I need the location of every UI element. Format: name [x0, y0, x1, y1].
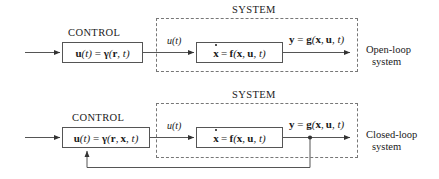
open-loop-system-title: SYSTEM	[232, 5, 276, 16]
closed-loop-control-block: u(t) = γ(r, x, t)	[62, 127, 150, 148]
closed-loop-caption-line1: Closed-loop	[366, 129, 417, 141]
open-loop-plant-block: x = f(x, u, t)	[196, 42, 283, 63]
open-loop-caption: Open-loop system	[366, 44, 411, 69]
open-loop-control-title: CONTROL	[68, 28, 120, 39]
open-loop-output-equation: y = g(x, u, t)	[289, 34, 344, 45]
closed-loop-control-title: CONTROL	[72, 113, 124, 124]
open-loop-signal-label: u(t)	[167, 36, 181, 46]
open-loop-control-block: u(t) = γ(r, t)	[62, 42, 143, 63]
closed-loop-caption-line2: system	[372, 141, 417, 153]
closed-loop-caption: Closed-loop system	[366, 129, 417, 154]
closed-loop-signal-label: u(t)	[167, 121, 181, 131]
open-loop-plant-equation: x = f(x, u, t)	[213, 47, 265, 59]
open-loop-caption-line1: Open-loop	[366, 44, 411, 56]
open-loop-caption-line2: system	[372, 56, 411, 68]
closed-loop-output-equation: y = g(x, u, t)	[289, 119, 344, 130]
closed-loop-system-title: SYSTEM	[232, 90, 276, 101]
closed-loop-control-equation: u(t) = γ(r, x, t)	[74, 132, 139, 144]
closed-loop-plant-block: x = f(x, u, t)	[196, 127, 283, 148]
block-diagram-figure: CONTROL SYSTEM u(t) = γ(r, t) u(t) x = f…	[0, 0, 439, 179]
closed-loop-plant-equation: x = f(x, u, t)	[213, 132, 265, 144]
open-loop-control-equation: u(t) = γ(r, t)	[75, 47, 129, 59]
